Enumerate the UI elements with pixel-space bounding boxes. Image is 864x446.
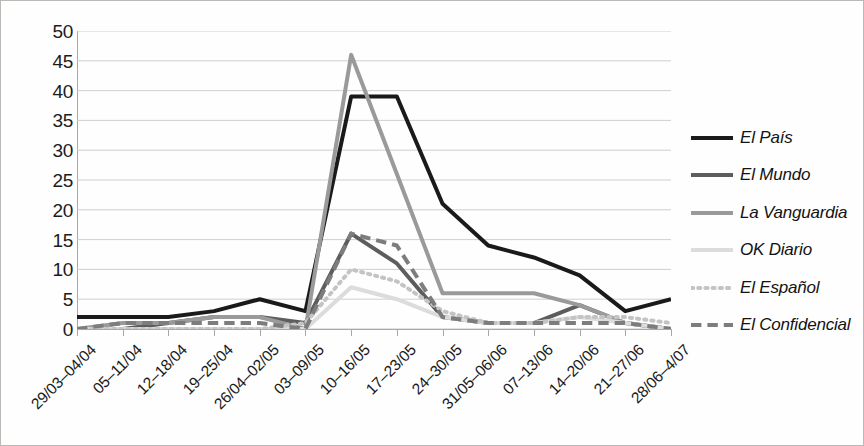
series-line-0 xyxy=(77,97,671,318)
legend-line-swatch-icon xyxy=(691,168,733,182)
legend-line-swatch-icon xyxy=(691,243,733,257)
x-axis-tick-label: 29/03–04/04 xyxy=(28,341,100,413)
y-axis-tick-label: 50 xyxy=(31,22,73,41)
legend-item-label: El Mundo xyxy=(740,165,810,185)
plot-area xyxy=(77,31,671,329)
x-axis-tick-labels: 29/03–04/0405–11/0412–18/0419–25/0426/04… xyxy=(1,329,701,446)
y-axis-tick-label: 35 xyxy=(31,111,73,130)
y-axis-tick-label: 15 xyxy=(31,230,73,249)
legend-line-swatch-icon xyxy=(691,206,733,220)
legend-item-label: El Español xyxy=(740,278,819,298)
legend-item-1[interactable]: El Mundo xyxy=(691,157,864,195)
y-axis-tick-label: 30 xyxy=(31,141,73,160)
legend-item-label: OK Diario xyxy=(740,240,812,260)
legend-line-swatch-icon xyxy=(691,318,733,332)
legend-item-label: La Vanguardia xyxy=(740,203,847,223)
legend-item-label: El País xyxy=(740,128,792,148)
y-axis-tick-label: 10 xyxy=(31,260,73,279)
x-axis-tick-label: 17–23/05 xyxy=(362,341,419,398)
x-axis-tick-label: 07–13/06 xyxy=(499,341,556,398)
legend-line-swatch-icon xyxy=(691,281,733,295)
y-axis-tick-label: 45 xyxy=(31,51,73,70)
chart-figure: 05101520253035404550 29/03–04/0405–11/04… xyxy=(0,0,864,446)
legend-item-label: El Confidencial xyxy=(740,315,850,335)
y-axis-tick-label: 5 xyxy=(31,290,73,309)
legend-line-swatch-icon xyxy=(691,131,733,145)
chart-legend: El PaísEl MundoLa VanguardiaOK DiarioEl … xyxy=(691,119,864,344)
series-line-1 xyxy=(77,234,671,329)
legend-item-3[interactable]: OK Diario xyxy=(691,232,864,270)
y-axis-tick-label: 25 xyxy=(31,171,73,190)
legend-item-0[interactable]: El País xyxy=(691,119,864,157)
line-chart-svg xyxy=(77,31,671,329)
y-axis-tick-label: 20 xyxy=(31,200,73,219)
legend-item-4[interactable]: El Español xyxy=(691,269,864,307)
x-axis-tick-label: 10–16/05 xyxy=(317,341,374,398)
legend-item-5[interactable]: El Confidencial xyxy=(691,307,864,345)
legend-item-2[interactable]: La Vanguardia xyxy=(691,194,864,232)
y-axis-tick-label: 40 xyxy=(31,81,73,100)
